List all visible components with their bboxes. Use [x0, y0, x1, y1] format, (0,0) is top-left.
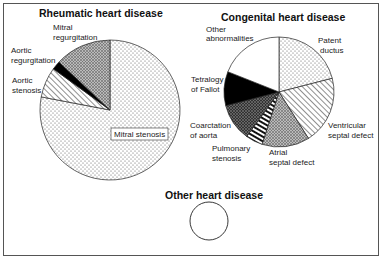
label-coarctation: Coarctation: [190, 121, 231, 130]
svg-text:stenosis: stenosis: [212, 154, 241, 163]
pie-charts: Rheumatic heart disease Mitral regurgita…: [0, 0, 381, 259]
label-patent-ductus: Patent: [318, 36, 342, 45]
svg-text:regurgitation: regurgitation: [53, 33, 97, 42]
label-ventricular-septal-defect: Ventricular: [328, 121, 366, 130]
svg-text:regurgitation: regurgitation: [11, 56, 55, 65]
other-title: Other heart disease: [165, 189, 263, 201]
label-other-abnormalities: Other: [206, 25, 226, 34]
label-tetralogy-of-fallot: Tetralogy: [191, 75, 223, 84]
svg-text:of aorta: of aorta: [190, 131, 218, 140]
congenital-pie: [224, 37, 334, 147]
svg-text:ductus: ductus: [320, 46, 344, 55]
rheumatic-pie: [40, 40, 180, 180]
label-mitral-regurgitation: Mitral: [53, 23, 73, 32]
svg-text:stenosis: stenosis: [12, 86, 41, 95]
other-pie: [190, 202, 228, 240]
label-atrial-septal-defect: Atrial: [269, 148, 287, 157]
label-aortic-regurgitation: Aortic: [11, 46, 31, 55]
label-aortic-stenosis: Aortic: [12, 76, 32, 85]
rheumatic-title: Rheumatic heart disease: [39, 7, 163, 19]
congenital-title: Congenital heart disease: [221, 11, 345, 23]
svg-text:of Fallot: of Fallot: [191, 85, 220, 94]
svg-text:septal defect: septal defect: [269, 158, 315, 167]
label-mitral-stenosis: Mitral stenosis: [114, 130, 165, 139]
svg-text:septal defect: septal defect: [328, 131, 374, 140]
svg-text:abnormalities: abnormalities: [206, 34, 254, 43]
label-pulmonary-stenosis: Pulmonary: [212, 144, 250, 153]
